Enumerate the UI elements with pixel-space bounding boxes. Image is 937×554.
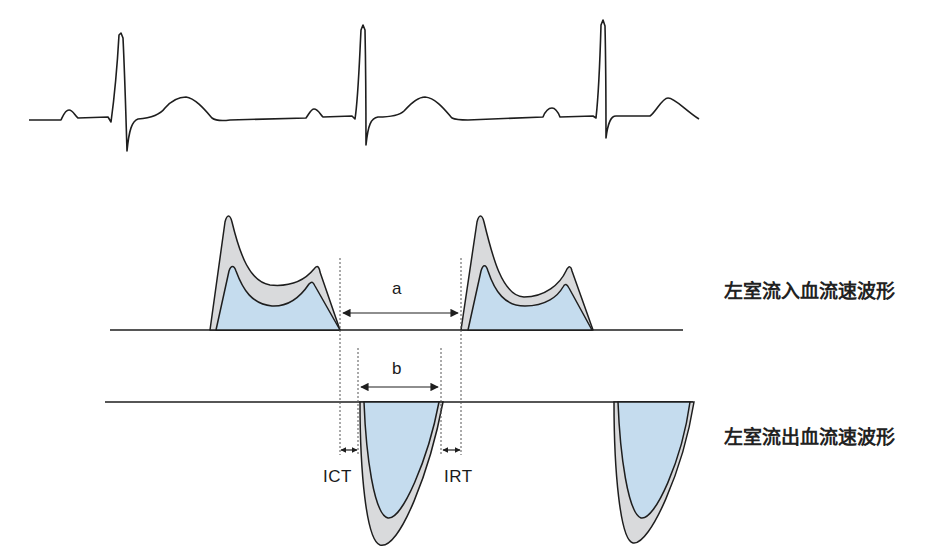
inflow-wave-1 <box>210 216 340 330</box>
outflow-waveform-label: 左室流出血流速波形 <box>724 422 895 449</box>
ecg-line <box>29 20 699 151</box>
interval-a-label: a <box>392 279 401 299</box>
outflow-wave-2 <box>614 402 694 543</box>
outflow-wave-1 <box>360 402 443 545</box>
ict-label: ICT <box>323 467 352 487</box>
irt-label: IRT <box>444 467 473 487</box>
inflow-wave-2 <box>461 216 593 330</box>
interval-b-label: b <box>392 359 401 379</box>
ecg-trace <box>29 20 699 151</box>
inflow-waveform-label: 左室流入血流速波形 <box>724 276 895 303</box>
